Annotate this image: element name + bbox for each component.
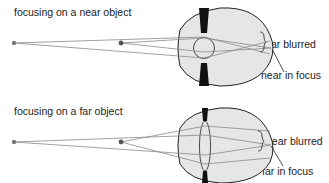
iris-bottom-icon — [202, 171, 208, 183]
near-point-icon — [119, 41, 124, 46]
thick-lens-icon — [194, 38, 215, 59]
far-point-icon — [12, 41, 16, 45]
far-point-icon — [12, 140, 16, 144]
eye-focus-diagram — [0, 0, 329, 183]
iris-top-icon — [202, 108, 208, 121]
near-focus-eye — [12, 8, 284, 86]
far-focus-eye — [12, 108, 283, 183]
near-point-icon — [119, 140, 124, 145]
